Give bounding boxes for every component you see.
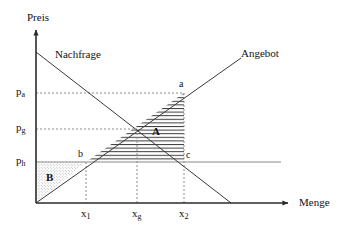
quantity-tick-xg: xg xyxy=(132,208,142,219)
price-tick-ph: ph xyxy=(16,155,26,166)
supply-curve-label: Angebot xyxy=(241,48,279,59)
supply-demand-diagram: Preis Menge Nachfrage Angebot pa pg ph x… xyxy=(0,0,351,235)
quantity-tick-x2-sub: 2 xyxy=(185,212,189,221)
supply-curve xyxy=(36,58,241,203)
quantity-tick-x1: x1 xyxy=(81,208,91,219)
y-axis-label: Preis xyxy=(27,12,49,23)
point-label-c: c xyxy=(186,150,190,160)
quantity-tick-x1-sub: 1 xyxy=(87,212,91,221)
region-label-b: B xyxy=(46,172,53,183)
region-a-shape xyxy=(86,93,184,162)
price-tick-pg: pg xyxy=(16,122,26,133)
price-tick-pa-sub: a xyxy=(22,90,26,99)
quantity-tick-xg-sub: g xyxy=(138,212,142,221)
region-label-a: A xyxy=(152,126,160,137)
point-label-a: a xyxy=(179,79,183,89)
x-axis-label: Menge xyxy=(299,197,330,208)
quantity-tick-x2: x2 xyxy=(179,208,189,219)
price-tick-pa: pa xyxy=(16,86,25,97)
demand-curve-label: Nachfrage xyxy=(55,49,101,60)
price-tick-pg-sub: g xyxy=(22,126,26,135)
price-tick-ph-sub: h xyxy=(22,159,26,168)
demand-curve xyxy=(36,52,231,203)
point-label-b: b xyxy=(78,149,83,159)
region-b-shape xyxy=(36,162,86,203)
